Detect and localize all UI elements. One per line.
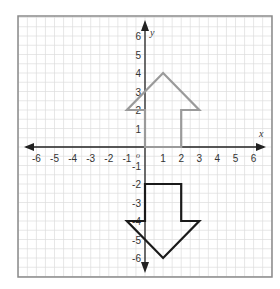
x-tick-label: 3	[197, 153, 203, 164]
y-tick-label: -1	[132, 161, 141, 172]
x-tick-label: 5	[233, 153, 239, 164]
y-tick-label: 6	[135, 31, 141, 42]
y-axis-up-arrow-icon	[141, 20, 149, 31]
origin-label: o	[136, 151, 140, 160]
y-tick-label: 5	[135, 50, 141, 61]
x-tick-label: 6	[251, 153, 257, 164]
y-tick-label: 4	[135, 68, 141, 79]
x-tick-label: -2	[104, 153, 113, 164]
x-tick-label: -4	[68, 153, 77, 164]
x-tick-label: 4	[215, 153, 221, 164]
x-axis-left-arrow-icon	[24, 143, 34, 151]
y-tick-label: -2	[132, 179, 141, 190]
y-tick-label: -5	[132, 235, 141, 246]
y-tick-label: -3	[132, 198, 141, 209]
y-tick-label: -6	[132, 253, 141, 264]
coordinate-plane: -6-5-4-3-2-1123456654321-1-2-3-4-5-6 x y…	[0, 0, 280, 289]
x-axis-right-arrow-icon	[256, 143, 266, 151]
x-tick-label: 1	[160, 153, 166, 164]
x-tick-label: 2	[178, 153, 184, 164]
x-axis-label: x	[258, 128, 264, 139]
y-tick-label: 1	[135, 124, 141, 135]
x-tick-label: -1	[122, 153, 131, 164]
x-tick-label: -3	[86, 153, 95, 164]
x-tick-label: -5	[50, 153, 59, 164]
y-axis-label: y	[149, 27, 155, 38]
x-tick-label: -6	[32, 153, 41, 164]
